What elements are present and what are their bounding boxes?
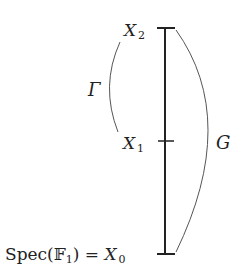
label-g: G (216, 132, 230, 153)
label-x2: X2 (122, 20, 145, 42)
label-x1: X1 (121, 133, 144, 155)
label-x0: Spec(𝔽1) = X0 (5, 244, 126, 266)
gamma-arc (109, 42, 120, 132)
label-gamma: Γ (87, 79, 102, 100)
g-arc (176, 30, 208, 252)
filtration-diagram: X2 X1 Spec(𝔽1) = X0 Γ G (0, 0, 242, 277)
